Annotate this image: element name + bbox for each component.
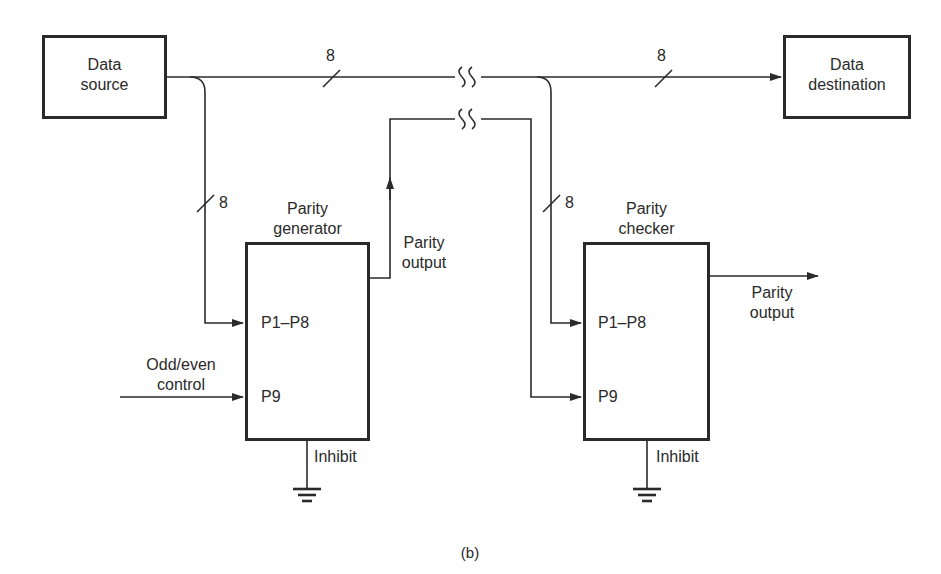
generator-data-branch (190, 77, 243, 323)
odd-even-control-line2: control (136, 375, 226, 395)
bus-width-generator: 8 (219, 193, 228, 213)
data-destination-line2: destination (783, 75, 911, 95)
parity-checker-title-line1: Parity (583, 199, 710, 219)
data-source-line1: Data (42, 55, 167, 75)
checker-inhibit-label: Inhibit (656, 447, 699, 467)
checker-output-label: Parity output (740, 283, 804, 323)
generator-input-p9: P9 (261, 387, 281, 407)
checker-input-p9: P9 (598, 387, 618, 407)
checker-input-p1-p8: P1–P8 (598, 313, 646, 333)
generator-output-label-line2: output (392, 253, 456, 273)
bus-width-checker: 8 (565, 193, 574, 213)
data-source-line2: source (42, 75, 167, 95)
checker-output-label-line2: output (740, 303, 804, 323)
generator-output-label-line1: Parity (392, 233, 456, 253)
ground-icon (633, 489, 661, 501)
data-source-label: Data source (42, 55, 167, 95)
parity-checker-title: Parity checker (583, 199, 710, 239)
bus-width-main-left: 8 (326, 46, 335, 66)
ground-icon (293, 489, 321, 501)
parity-checker-title-line2: checker (583, 219, 710, 239)
odd-even-control-line1: Odd/even (136, 355, 226, 375)
figure-caption: (b) (440, 543, 500, 563)
checker-output-label-line1: Parity (740, 283, 804, 303)
bus-slash-main-left (323, 70, 340, 87)
parity-to-checker-p9 (481, 119, 581, 397)
parity-checker-block (583, 242, 710, 441)
parity-generator-title: Parity generator (245, 199, 370, 239)
line-break-symbol-parity (459, 109, 475, 129)
generator-output-label: Parity output (392, 233, 456, 273)
bus-slash-main-right (655, 70, 672, 87)
parity-generator-block (245, 242, 370, 441)
checker-data-branch (537, 77, 581, 323)
odd-even-control-label: Odd/even control (136, 355, 226, 395)
parity-generator-title-line2: generator (245, 219, 370, 239)
parity-generator-title-line1: Parity (245, 199, 370, 219)
bus-width-main-right: 8 (657, 46, 666, 66)
generator-input-p1-p8: P1–P8 (261, 313, 309, 333)
line-break-symbol-main (459, 67, 475, 87)
data-destination-line1: Data (783, 55, 911, 75)
generator-inhibit-label: Inhibit (314, 447, 357, 467)
data-destination-label: Data destination (783, 55, 911, 95)
